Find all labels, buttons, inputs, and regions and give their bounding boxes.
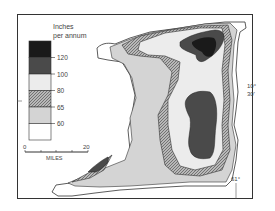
legend: Inches per annum 120100806560 bbox=[29, 23, 87, 140]
legend-swatch bbox=[29, 41, 51, 58]
scale-end-label: 20 bbox=[83, 144, 90, 150]
legend-swatch bbox=[29, 58, 51, 75]
legend-swatch bbox=[29, 107, 51, 124]
latitude-minutes: 30' bbox=[247, 91, 255, 97]
latitude-degrees: 10° bbox=[247, 83, 257, 89]
legend-tick-label: 100 bbox=[57, 71, 68, 78]
legend-swatch bbox=[29, 124, 51, 141]
legend-swatch bbox=[29, 74, 51, 91]
scale-bar: 0 20 MILES bbox=[23, 144, 90, 161]
legend-tick-label: 65 bbox=[57, 104, 65, 111]
legend-ticks: 120100806560 bbox=[51, 54, 68, 127]
legend-tick-label: 80 bbox=[57, 87, 65, 94]
legend-swatches bbox=[29, 41, 51, 140]
scale-unit-label: MILES bbox=[46, 155, 63, 161]
legend-title-line1: Inches bbox=[53, 23, 74, 30]
longitude-label: 61° bbox=[231, 176, 241, 182]
scale-start-label: 0 bbox=[23, 144, 27, 150]
legend-tick-label: 120 bbox=[57, 54, 68, 61]
legend-tick-label: 60 bbox=[57, 120, 65, 127]
legend-title-line2: per annum bbox=[53, 32, 87, 40]
rainfall-map: Inches per annum 120100806560 0 20 MILES… bbox=[0, 0, 275, 211]
legend-swatch bbox=[29, 91, 51, 108]
